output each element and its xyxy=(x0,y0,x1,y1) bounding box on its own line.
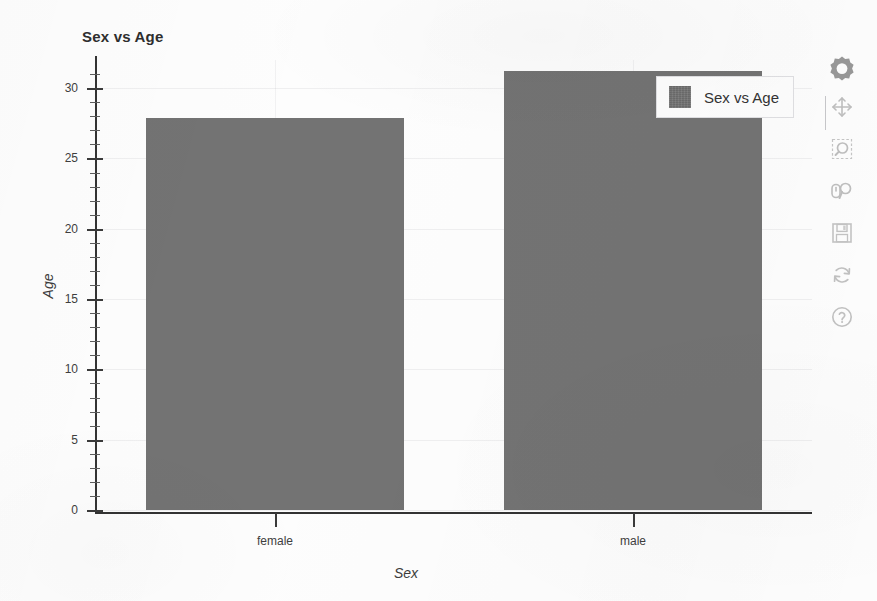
y-tick-minor xyxy=(90,201,100,202)
gridline-y xyxy=(96,510,812,511)
y-tick-minor xyxy=(90,341,100,342)
x-tick-major xyxy=(633,513,635,527)
box-zoom-tool-icon[interactable] xyxy=(825,132,859,166)
plot-canvas[interactable] xyxy=(96,60,812,510)
x-tick-label-female: female xyxy=(257,534,293,548)
y-tick-minor xyxy=(90,454,100,455)
legend[interactable]: Sex vs Age xyxy=(656,76,794,118)
y-tick-major xyxy=(87,299,103,301)
y-tick-label: 10 xyxy=(38,362,78,376)
y-tick-minor xyxy=(90,482,100,483)
y-tick-minor xyxy=(90,215,100,216)
y-tick-label: 30 xyxy=(38,81,78,95)
y-tick-major xyxy=(87,440,103,442)
reset-tool-icon[interactable] xyxy=(825,258,859,292)
y-tick-minor xyxy=(90,257,100,258)
y-tick-minor xyxy=(90,468,100,469)
y-tick-minor xyxy=(90,327,100,328)
y-tick-label: 25 xyxy=(38,151,78,165)
y-tick-major xyxy=(87,510,103,512)
y-tick-label: 5 xyxy=(38,433,78,447)
chart-screenshot: Sex vs Age 051015202530 femalemale Age S… xyxy=(0,0,877,601)
y-tick-minor xyxy=(90,116,100,117)
y-tick-minor xyxy=(90,383,100,384)
bokeh-logo-icon[interactable] xyxy=(825,52,859,86)
bar-female[interactable] xyxy=(146,118,404,510)
y-tick-major xyxy=(87,88,103,90)
legend-swatch-sex-vs-age xyxy=(669,86,691,108)
legend-label-sex-vs-age: Sex vs Age xyxy=(704,89,779,106)
y-tick-minor xyxy=(90,412,100,413)
y-tick-minor xyxy=(90,313,100,314)
y-tick-minor xyxy=(90,398,100,399)
y-tick-minor xyxy=(90,102,100,103)
y-tick-major xyxy=(87,158,103,160)
bokeh-plot[interactable]: Sex vs Age 051015202530 femalemale Age S… xyxy=(0,0,812,601)
y-tick-minor xyxy=(90,271,100,272)
y-axis-title: Age xyxy=(40,274,56,299)
x-axis-line xyxy=(95,512,812,514)
y-tick-minor xyxy=(90,285,100,286)
y-tick-minor xyxy=(90,426,100,427)
y-tick-minor xyxy=(90,187,100,188)
bar-male[interactable] xyxy=(504,71,762,510)
save-tool-icon[interactable] xyxy=(825,216,859,250)
y-tick-label: 20 xyxy=(38,222,78,236)
y-tick-minor xyxy=(90,243,100,244)
y-tick-major xyxy=(87,229,103,231)
y-tick-major xyxy=(87,369,103,371)
help-tool-icon[interactable] xyxy=(825,300,859,334)
y-tick-label: 0 xyxy=(38,503,78,517)
x-tick-label-male: male xyxy=(620,534,646,548)
y-tick-minor xyxy=(90,74,100,75)
y-axis-title-wrap: Age xyxy=(38,0,84,14)
wheel-zoom-tool-icon[interactable] xyxy=(825,174,859,208)
x-tick-major xyxy=(275,513,277,527)
bokeh-toolbar[interactable] xyxy=(813,52,871,342)
y-tick-minor xyxy=(90,496,100,497)
y-tick-minor xyxy=(90,355,100,356)
y-tick-minor xyxy=(90,144,100,145)
y-tick-minor xyxy=(90,173,100,174)
chart-title: Sex vs Age xyxy=(82,28,164,45)
x-axis-title: Sex xyxy=(0,565,812,581)
pan-tool-icon[interactable] xyxy=(825,90,859,124)
y-tick-minor xyxy=(90,130,100,131)
